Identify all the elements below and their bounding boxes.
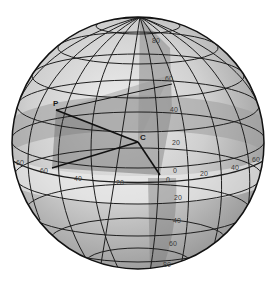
lon-east-60: 60: [252, 156, 260, 163]
lat-north-60: 60: [165, 75, 173, 82]
lat-south-40: 40: [173, 217, 181, 224]
lat-south-60: 60: [169, 240, 177, 247]
point-p-label: P: [53, 99, 59, 108]
lat-north-40: 40: [170, 106, 178, 113]
lon-east-20: 20: [200, 170, 208, 177]
lat-south-20: 20: [174, 194, 182, 201]
globe-diagram: P C 20 40 60 80 0 0 20 40 60 80 20 40 60…: [0, 0, 272, 281]
origin-label-lon: 0: [173, 167, 177, 174]
lon-west-40: 40: [74, 175, 82, 182]
lon-west-20: 20: [116, 179, 124, 186]
lat-north-20: 20: [172, 139, 180, 146]
lon-west-60: 60: [40, 167, 48, 174]
lat-south-80: 80: [163, 261, 171, 268]
lat-north-80: 80: [152, 37, 160, 44]
origin-label-lat: 0: [166, 176, 170, 183]
lon-west-60-outer: 60: [16, 159, 24, 166]
lon-east-40: 40: [231, 164, 239, 171]
point-c-label: C: [140, 133, 146, 142]
